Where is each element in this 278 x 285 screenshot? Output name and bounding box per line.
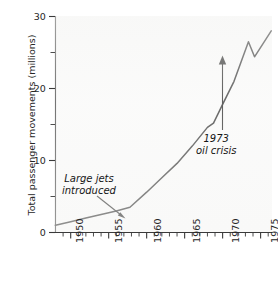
y-axis-title: Total passenger movements (millions) xyxy=(26,46,37,216)
large-jets-annotation-text: Large jets introduced xyxy=(62,173,116,196)
oil-crisis-annotation-line1: 1973 xyxy=(204,133,229,144)
x-tick-label-1965: 1965 xyxy=(191,218,202,243)
large-jets-annotation-line2: introduced xyxy=(62,185,116,197)
x-tick-label-1960: 1960 xyxy=(152,218,163,243)
chart-figure: 30 20 10 0 Total passenger movements (mi… xyxy=(0,0,278,285)
y-tick-label-0: 0 xyxy=(20,227,46,238)
y-tick-label-30: 30 xyxy=(20,11,46,22)
oil-crisis-annotation-text: 1973 oil crisis xyxy=(196,133,236,156)
x-tick-label-1955: 1955 xyxy=(113,218,124,243)
x-tick-label-1970: 1970 xyxy=(230,218,241,243)
x-tick-label-1975: 1975 xyxy=(269,218,278,243)
large-jets-annotation-line1: Large jets xyxy=(64,173,114,184)
x-tick-label-1950: 1950 xyxy=(74,218,85,243)
plot-background xyxy=(55,16,272,232)
y-axis-minor-ticks xyxy=(51,53,56,197)
oil-crisis-annotation-line2: oil crisis xyxy=(196,145,236,157)
